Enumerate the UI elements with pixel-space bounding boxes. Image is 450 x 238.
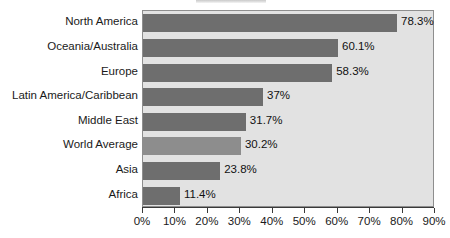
x-tick-mark [207, 208, 208, 213]
category-label: World Average [0, 138, 138, 150]
x-tick-mark [337, 208, 338, 213]
category-label: Africa [0, 188, 138, 200]
x-tick-mark [239, 208, 240, 213]
x-tick-mark [402, 208, 403, 213]
x-axis: 0%10%20%30%40%50%60%70%80%90% [142, 207, 434, 238]
bar-oceania-australia [143, 39, 338, 57]
bar-europe [143, 64, 332, 82]
x-tick-mark [304, 208, 305, 213]
category-label: Latin America/Caribbean [0, 89, 138, 101]
x-tick-mark [142, 208, 143, 213]
bar-middle-east [143, 113, 246, 131]
category-label: Oceania/Australia [0, 40, 138, 52]
bar-latin-america-caribbean [143, 88, 263, 106]
category-label: Europe [0, 65, 138, 77]
bar-world-average [143, 137, 241, 155]
category-axis: North AmericaOceania/AustraliaEuropeLati… [0, 10, 138, 207]
x-tick-mark [434, 208, 435, 213]
category-label: Middle East [0, 114, 138, 126]
cropped-title-fragment [196, 0, 266, 3]
x-tick-mark [272, 208, 273, 213]
x-tick-label: 90% [414, 215, 450, 227]
plot-area [142, 10, 434, 207]
bar-asia [143, 162, 220, 180]
bar-africa [143, 187, 180, 205]
x-tick-mark [174, 208, 175, 213]
category-label: North America [0, 15, 138, 27]
x-tick-mark [369, 208, 370, 213]
x-axis-line [142, 207, 434, 208]
category-label: Asia [0, 163, 138, 175]
bar-north-america [143, 14, 397, 32]
bars-container [143, 11, 433, 206]
